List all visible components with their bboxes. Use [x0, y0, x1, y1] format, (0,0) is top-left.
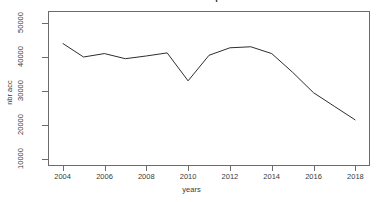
x-axis-tick-label: 2008 [129, 172, 163, 181]
x-axis-tick [105, 166, 106, 171]
x-axis-tick-label: 2016 [297, 172, 331, 181]
x-axis-tick [230, 166, 231, 171]
x-axis-tick [272, 166, 273, 171]
x-axis-tick [355, 166, 356, 171]
data-series-line [63, 43, 356, 120]
x-axis-tick [314, 166, 315, 171]
y-axis-tick [42, 125, 48, 126]
y-axis-tick [42, 57, 48, 58]
y-axis-tick-label: 20000 [16, 108, 25, 142]
x-axis-tick [188, 166, 189, 171]
x-axis-title: years [0, 185, 383, 194]
x-axis-tick [146, 166, 147, 171]
y-axis-tick-label: 40000 [16, 40, 25, 74]
x-axis-tick-label: 2012 [213, 172, 247, 181]
plot-canvas [48, 11, 370, 166]
y-axis-tick [42, 23, 48, 24]
y-axis-tick [42, 91, 48, 92]
y-axis-tick-label: 10000 [16, 142, 25, 176]
x-axis-tick-label: 2018 [338, 172, 372, 181]
x-axis-tick-label: 2010 [171, 172, 205, 181]
chart-title: Nombre d'accidents par annee [0, 0, 383, 2]
x-axis-tick-label: 2006 [88, 172, 122, 181]
x-axis-tick [63, 166, 64, 171]
y-axis-title: nbr acc [5, 73, 14, 113]
y-axis-tick-label: 30000 [16, 74, 25, 108]
x-axis-tick-label: 2014 [255, 172, 289, 181]
y-axis-tick-label: 50000 [16, 5, 25, 39]
x-axis-tick-label: 2004 [46, 172, 80, 181]
y-axis-tick [42, 159, 48, 160]
line-chart: Nombre d'accidents par annee 10000200003… [0, 0, 383, 202]
